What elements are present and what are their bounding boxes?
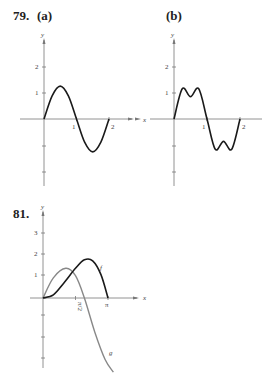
y-axis-label: y [40, 31, 45, 39]
y-tick-2: 2 [35, 63, 39, 71]
curve-g [43, 268, 113, 372]
curve-f-label: f [100, 264, 103, 272]
x-axis-arrow-icon [128, 118, 134, 121]
x-axis-arrow-icon [133, 297, 139, 300]
x-tick-1: 1 [202, 123, 206, 131]
y-tick-1: 1 [34, 271, 38, 279]
x-tick-pi: π [105, 301, 109, 309]
y-axis-label: y [170, 31, 175, 39]
x-axis-arrow-icon [135, 118, 141, 121]
curve-g-label: g [109, 349, 113, 357]
y-axis-label: y [40, 203, 45, 211]
x-tick-1: 1 [72, 123, 76, 131]
x-axis-label: x [142, 294, 147, 302]
x-tick-2: 2 [242, 123, 246, 131]
charts-canvas: y 2 1 1 2 y x 2 1 1 2 x [0, 0, 263, 381]
y-tick-2: 2 [34, 250, 38, 258]
y-tick-3: 3 [34, 229, 38, 237]
y-tick-2: 2 [165, 63, 169, 71]
graph-79a: y 2 1 1 2 [20, 31, 134, 186]
x-tick-2: 2 [111, 123, 115, 131]
y-tick-1: 1 [35, 89, 39, 97]
graph-81: x y 3 2 1 π/2 π f g [30, 203, 147, 372]
x-axis-label-a: x [142, 116, 147, 124]
x-tick-pi-half: π/2 [76, 302, 84, 311]
y-tick-1: 1 [165, 89, 169, 97]
graph-79b: y x 2 1 1 2 [135, 31, 262, 186]
